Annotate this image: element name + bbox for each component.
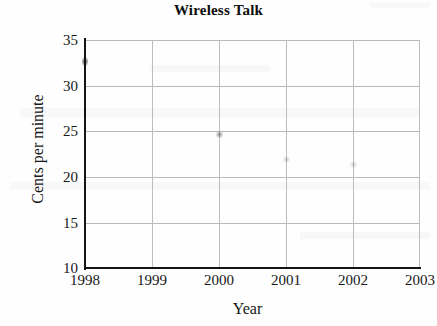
x-axis-label: Year — [0, 300, 437, 318]
data-point — [283, 156, 290, 163]
y-tick-label: 20 — [42, 170, 78, 185]
x-tick-label: 2000 — [189, 272, 249, 289]
gridline-horizontal — [85, 131, 420, 132]
y-tick-label: 35 — [42, 33, 78, 48]
gridline-vertical — [286, 40, 287, 268]
x-tick-label: 2001 — [256, 272, 316, 289]
gridline-vertical — [152, 40, 153, 268]
gridline-horizontal — [85, 223, 420, 224]
gridline-vertical — [353, 40, 354, 268]
chart-figure: Wireless Talk 35 30 25 20 15 10 Cents pe… — [0, 0, 437, 326]
data-point — [350, 161, 357, 168]
x-axis-line — [84, 267, 421, 269]
gridline-horizontal — [85, 177, 420, 178]
x-tick-label: 2002 — [323, 272, 383, 289]
y-axis-line — [84, 38, 86, 270]
gridline-vertical — [419, 40, 420, 268]
y-tick-label: 30 — [42, 79, 78, 94]
y-tick-label: 25 — [42, 124, 78, 139]
x-tick-label: 2003 — [390, 272, 437, 289]
x-tick-label: 1999 — [122, 272, 182, 289]
data-point — [216, 131, 223, 138]
gridline-horizontal — [85, 86, 420, 87]
plot-area — [85, 40, 420, 268]
gridline-vertical — [219, 40, 220, 268]
y-tick-label: 15 — [42, 216, 78, 231]
gridline-horizontal — [85, 40, 420, 41]
y-axis-label: Cents per minute — [29, 49, 47, 249]
x-tick-label: 1998 — [55, 272, 115, 289]
